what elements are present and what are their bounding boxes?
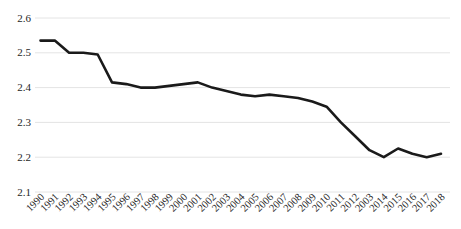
line-chart: 2.12.22.32.42.52.61990199119921993199419… [0,0,461,229]
y-axis-tick-label: 2.5 [17,46,31,58]
y-axis-tick-label: 2.1 [17,186,31,198]
y-axis-tick-label: 2.3 [17,116,31,128]
chart-container: 2.12.22.32.42.52.61990199119921993199419… [0,0,461,229]
y-axis-tick-label: 2.4 [17,81,31,93]
y-axis-tick-label: 2.2 [17,151,31,163]
data-series-line [41,41,442,158]
y-axis-tick-label: 2.6 [17,12,31,24]
